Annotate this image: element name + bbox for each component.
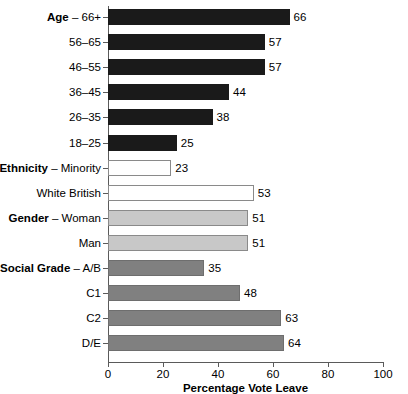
bar-row: 46–5557 (108, 57, 383, 77)
bar-value-label: 38 (217, 107, 230, 127)
x-axis-tick-label: 100 (363, 368, 403, 380)
bar (108, 84, 229, 100)
bar-row: 56–6557 (108, 32, 383, 52)
bar-row: 26–3538 (108, 107, 383, 127)
bar-subcategory-name: – Minority (51, 162, 101, 174)
bar-subcategory-name: 56–65 (69, 36, 101, 48)
bar (108, 160, 171, 176)
bar (108, 109, 213, 125)
x-axis-tick (108, 362, 109, 367)
bar-row: Gender – Woman51 (108, 208, 383, 228)
bar (108, 210, 248, 226)
bar-category-label: White British (36, 183, 101, 203)
bar-value-label: 64 (288, 333, 301, 353)
bar-category-label: C1 (86, 283, 101, 303)
bar-row: D/E64 (108, 333, 383, 353)
bar-row: Man51 (108, 233, 383, 253)
bar-value-label: 51 (252, 208, 265, 228)
bar-category-label: Gender – Woman (9, 208, 101, 228)
bar-value-label: 23 (175, 158, 188, 178)
bar-value-label: 44 (233, 82, 246, 102)
x-axis-tick-label: 20 (143, 368, 183, 380)
bar (108, 9, 290, 25)
x-axis-tick (218, 362, 219, 367)
bar-subcategory-name: Man (79, 237, 101, 249)
bar-value-label: 63 (285, 308, 298, 328)
bar-row: Ethnicity – Minority23 (108, 158, 383, 178)
bar-subcategory-name: 18–25 (69, 137, 101, 149)
bar-row: 36–4544 (108, 82, 383, 102)
bar-value-label: 53 (258, 183, 271, 203)
bar-value-label: 57 (269, 57, 282, 77)
bar (108, 310, 281, 326)
bar (108, 335, 284, 351)
bar-category-label: C2 (86, 308, 101, 328)
bar-value-label: 48 (244, 283, 257, 303)
x-axis-tick (273, 362, 274, 367)
bar-chart: Age – 66+6656–655746–555736–454426–35381… (0, 0, 408, 394)
bar (108, 34, 265, 50)
bar (108, 235, 248, 251)
bar-row: White British53 (108, 183, 383, 203)
bar-group-name: Gender (9, 212, 52, 224)
x-axis-tick-label: 40 (198, 368, 238, 380)
bar-subcategory-name: White British (36, 187, 101, 199)
bar-value-label: 35 (208, 258, 221, 278)
bar-category-label: D/E (82, 333, 101, 353)
bar-subcategory-name: – Woman (52, 212, 101, 224)
bar-group-name: Social Grade (0, 262, 74, 274)
bar-subcategory-name: – 66+ (72, 11, 101, 23)
x-axis-title: Percentage Vote Leave (108, 382, 383, 394)
bar-row: C148 (108, 283, 383, 303)
bar-group-name: Ethnicity (0, 162, 51, 174)
x-axis-tick-label: 60 (253, 368, 293, 380)
bar-subcategory-name: 36–45 (69, 86, 101, 98)
x-axis-tick-label: 80 (308, 368, 348, 380)
bar-category-label: Age – 66+ (47, 7, 101, 27)
x-axis-tick (383, 362, 384, 367)
bar-group-name: Age (47, 11, 72, 23)
x-axis-tick (163, 362, 164, 367)
bar (108, 260, 204, 276)
bar-value-label: 25 (181, 133, 194, 153)
bar-subcategory-name: C2 (86, 312, 101, 324)
bar-row: 18–2525 (108, 133, 383, 153)
bar-category-label: 18–25 (69, 133, 101, 153)
plot-area: Age – 66+6656–655746–555736–454426–35381… (108, 6, 383, 362)
bar-row: Social Grade – A/B35 (108, 258, 383, 278)
bar-category-label: 56–65 (69, 32, 101, 52)
bar-category-label: Man (79, 233, 101, 253)
bar-row: Age – 66+66 (108, 7, 383, 27)
bar (108, 59, 265, 75)
bar-subcategory-name: 26–35 (69, 111, 101, 123)
bar-subcategory-name: D/E (82, 337, 101, 349)
bar-category-label: Ethnicity – Minority (0, 158, 101, 178)
x-axis-line (108, 362, 383, 363)
bar (108, 135, 177, 151)
bar-row: C263 (108, 308, 383, 328)
bar-value-label: 51 (252, 233, 265, 253)
bar-category-label: 36–45 (69, 82, 101, 102)
bar-category-label: 26–35 (69, 107, 101, 127)
bar (108, 185, 254, 201)
x-axis-tick-label: 0 (88, 368, 128, 380)
bar-subcategory-name: 46–55 (69, 61, 101, 73)
bar-subcategory-name: C1 (86, 287, 101, 299)
bar-value-label: 66 (294, 7, 307, 27)
bar-value-label: 57 (269, 32, 282, 52)
bar (108, 285, 240, 301)
bar-category-label: Social Grade – A/B (0, 258, 101, 278)
bar-subcategory-name: – A/B (74, 262, 102, 274)
bar-category-label: 46–55 (69, 57, 101, 77)
x-axis-tick (328, 362, 329, 367)
